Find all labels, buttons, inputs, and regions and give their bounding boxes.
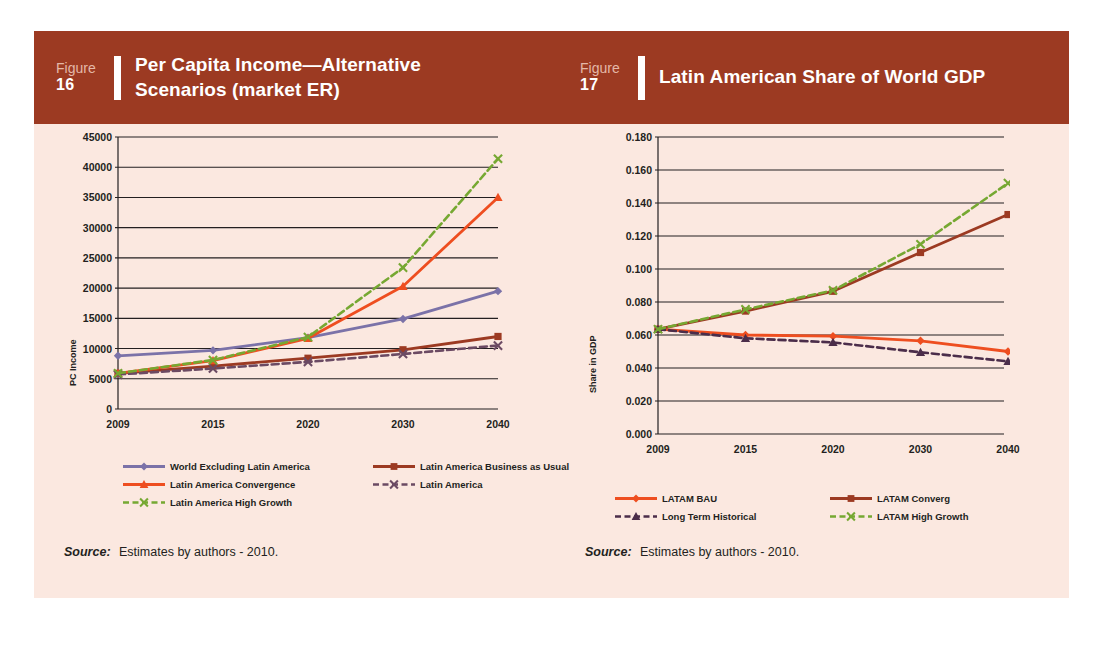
legend-swatch-x-icon	[829, 511, 873, 522]
figure-16-divider	[114, 56, 121, 100]
legend-item[interactable]: Latin America	[372, 479, 482, 490]
legend-item[interactable]: Latin America Convergence	[122, 479, 372, 490]
chart-0-y-axis-label: PC Income	[68, 339, 78, 386]
y-tick-label: 35000	[83, 191, 112, 203]
figure-17-header: Figure 17 Latin American Share of World …	[580, 31, 985, 124]
legend-swatch-triangle-icon	[122, 479, 166, 490]
x-tick-label: 2040	[996, 443, 1019, 455]
series-markers-3	[654, 179, 1010, 333]
legend-row: Latin America ConvergenceLatin America	[122, 479, 572, 490]
figure-16-source: Source: Estimates by authors - 2010.	[64, 545, 278, 559]
legend-label: Latin America Business as Usual	[420, 461, 569, 472]
legend-label: LATAM High Growth	[877, 511, 968, 522]
y-tick-label: 45000	[83, 131, 112, 143]
chart-1-legend: LATAM BAULATAM ConvergLong Term Historic…	[614, 493, 1054, 529]
chart-1-plot-area: 0.0000.0200.0400.0600.0800.1000.1200.140…	[620, 131, 1010, 456]
legend-row: Long Term HistoricalLATAM High Growth	[614, 511, 1054, 522]
x-tick-label: 2015	[734, 443, 757, 455]
figure-16-number-block: Figure 16	[56, 61, 114, 95]
figure-17-word: Figure	[580, 60, 620, 76]
legend-item[interactable]: LATAM High Growth	[829, 511, 968, 522]
legend-label: Latin America	[420, 479, 482, 490]
y-tick-label: 40000	[83, 161, 112, 173]
legend-label: LATAM BAU	[662, 493, 717, 504]
y-tick-label: 30000	[83, 222, 112, 234]
y-tick-label: 0.180	[626, 131, 652, 143]
y-tick-label: 0.140	[626, 197, 652, 209]
legend-swatch-square-icon	[829, 493, 873, 504]
y-tick-label: 5000	[89, 373, 112, 385]
series-line-3	[658, 183, 1008, 329]
x-tick-label: 2020	[296, 418, 319, 430]
figure-17-source: Source: Estimates by authors - 2010.	[585, 545, 799, 559]
series-line-0	[118, 291, 498, 356]
figure-16-source-text: Estimates by authors - 2010.	[119, 545, 278, 559]
legend-item[interactable]: LATAM BAU	[614, 493, 829, 504]
legend-swatch-diamond-icon	[614, 493, 658, 504]
chart-per-capita-income: PC Income 050001000015000200002500030000…	[56, 131, 576, 571]
chart-1-y-axis-label: Share in GDP	[588, 335, 598, 393]
x-tick-label: 2020	[821, 443, 844, 455]
legend-item[interactable]: Latin America High Growth	[122, 497, 372, 508]
y-tick-label: 15000	[83, 312, 112, 324]
y-tick-label: 10000	[83, 343, 112, 355]
figure-17-title: Latin American Share of World GDP	[659, 65, 985, 89]
legend-swatch-diamond-icon	[122, 461, 166, 472]
y-tick-label: 0.020	[626, 395, 652, 407]
figure-page: Figure 16 Per Capita Income—Alternative …	[0, 0, 1101, 664]
x-tick-label: 2030	[391, 418, 414, 430]
chart-0-legend: World Excluding Latin AmericaLatin Ameri…	[122, 461, 572, 515]
chart-latam-share-gdp: Share in GDP 0.0000.0200.0400.0600.0800.…	[580, 131, 1060, 571]
y-tick-label: 0.100	[626, 263, 652, 275]
figure-16-title: Per Capita Income—Alternative Scenarios …	[135, 53, 465, 102]
y-tick-label: 0	[106, 403, 112, 415]
chart-0-plot-area: 0500010000150002000025000300003500040000…	[84, 131, 504, 431]
legend-label: LATAM Converg	[877, 493, 950, 504]
legend-label: Latin America Convergence	[170, 479, 295, 490]
legend-label: Latin America High Growth	[170, 497, 292, 508]
figure-16-header: Figure 16 Per Capita Income—Alternative …	[56, 31, 465, 124]
legend-swatch-x-icon	[122, 497, 166, 508]
legend-row: World Excluding Latin AmericaLatin Ameri…	[122, 461, 572, 472]
figure-16-word: Figure	[56, 60, 96, 76]
y-tick-label: 0.060	[626, 329, 652, 341]
chart-svg	[84, 131, 504, 431]
figure-card: Figure 16 Per Capita Income—Alternative …	[34, 31, 1069, 598]
figure-17-source-text: Estimates by authors - 2010.	[640, 545, 799, 559]
series-markers-1	[654, 211, 1010, 333]
y-tick-label: 20000	[83, 282, 112, 294]
legend-item[interactable]: Latin America Business as Usual	[372, 461, 569, 472]
figure-17-source-label: Source:	[585, 545, 632, 559]
y-tick-label: 0.000	[626, 428, 652, 440]
legend-item[interactable]: LATAM Converg	[829, 493, 950, 504]
x-tick-label: 2040	[486, 418, 509, 430]
legend-row: Latin America High Growth	[122, 497, 572, 508]
y-tick-label: 0.040	[626, 362, 652, 374]
figure-16-source-label: Source:	[64, 545, 111, 559]
series-line-1	[658, 215, 1008, 330]
figure-17-number-block: Figure 17	[580, 61, 638, 95]
chart-svg	[620, 131, 1010, 456]
legend-label: Long Term Historical	[662, 511, 756, 522]
legend-label: World Excluding Latin America	[170, 461, 310, 472]
figure-16-number: 16	[56, 76, 108, 94]
y-tick-label: 0.120	[626, 230, 652, 242]
x-tick-label: 2009	[646, 443, 669, 455]
y-tick-label: 0.160	[626, 164, 652, 176]
legend-swatch-triangle-icon	[614, 511, 658, 522]
legend-row: LATAM BAULATAM Converg	[614, 493, 1054, 504]
y-tick-label: 0.080	[626, 296, 652, 308]
legend-item[interactable]: Long Term Historical	[614, 511, 829, 522]
y-tick-label: 25000	[83, 252, 112, 264]
figure-17-divider	[638, 56, 645, 100]
x-tick-label: 2015	[201, 418, 224, 430]
x-tick-label: 2009	[106, 418, 129, 430]
legend-item[interactable]: World Excluding Latin America	[122, 461, 372, 472]
figure-17-number: 17	[580, 76, 632, 94]
x-tick-label: 2030	[909, 443, 932, 455]
legend-swatch-square-icon	[372, 461, 416, 472]
legend-swatch-x-icon	[372, 479, 416, 490]
